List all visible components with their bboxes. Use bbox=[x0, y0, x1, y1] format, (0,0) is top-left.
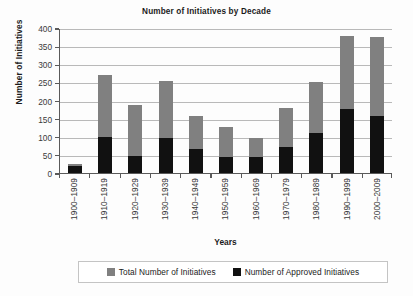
chart-figure: Number of Initiatives by Decade Number o… bbox=[0, 0, 413, 296]
bar-group[interactable] bbox=[249, 29, 263, 173]
y-tick-label: 50 bbox=[43, 151, 55, 161]
bar-segment-total bbox=[159, 81, 173, 138]
x-tick-label: 1950–1959 bbox=[221, 178, 230, 220]
bar-total[interactable] bbox=[340, 36, 354, 173]
y-tick-label: 300 bbox=[38, 60, 55, 70]
x-label-slot: 1960–1969 bbox=[249, 178, 263, 234]
bar-segment-approved bbox=[309, 133, 323, 173]
legend-swatch-icon bbox=[233, 268, 241, 276]
y-tick-350: 350 bbox=[38, 42, 59, 52]
chart-legend: Total Number of InitiativesNumber of App… bbox=[78, 261, 388, 283]
y-tick-label: 100 bbox=[38, 133, 55, 143]
bar-group[interactable] bbox=[279, 29, 293, 173]
bar-segment-total bbox=[98, 75, 112, 137]
y-tick-100: 100 bbox=[38, 133, 59, 143]
y-tick-150: 150 bbox=[38, 115, 59, 125]
legend-label: Total Number of Initiatives bbox=[119, 267, 216, 277]
y-tick-label: 350 bbox=[38, 42, 55, 52]
x-label-slot: 1900–1909 bbox=[67, 178, 81, 234]
bar-segment-approved bbox=[128, 156, 142, 173]
x-label-slot: 1980–1989 bbox=[309, 178, 323, 234]
bar-segment-approved bbox=[279, 147, 293, 173]
bar-segment-total bbox=[309, 82, 323, 133]
bar-segment-total bbox=[370, 37, 384, 116]
x-axis-tick-labels: 1900–19091910–19191920–19291930–19391940… bbox=[59, 178, 392, 234]
y-tick-200: 200 bbox=[38, 97, 59, 107]
bar-group[interactable] bbox=[309, 29, 323, 173]
bar-group[interactable] bbox=[219, 29, 233, 173]
bar-group[interactable] bbox=[128, 29, 142, 173]
bar-group[interactable] bbox=[68, 29, 82, 173]
bar-segment-total bbox=[340, 36, 354, 110]
x-tick-label: 1920–1929 bbox=[130, 178, 139, 220]
bar-segment-total bbox=[279, 108, 293, 147]
bar-segment-total bbox=[219, 127, 233, 157]
bar-segment-approved bbox=[340, 109, 354, 173]
x-tick-label: 1930–1939 bbox=[160, 178, 169, 220]
bar-segment-approved bbox=[370, 116, 384, 173]
y-tick-label: 250 bbox=[38, 78, 55, 88]
bar-total[interactable] bbox=[279, 108, 293, 173]
y-tick-label: 0 bbox=[47, 169, 55, 179]
y-tick-400: 400 bbox=[38, 24, 59, 34]
x-label-slot: 1930–1939 bbox=[158, 178, 172, 234]
bar-segment-approved bbox=[98, 137, 112, 173]
plot-area bbox=[59, 29, 392, 174]
x-label-slot: 1910–1919 bbox=[97, 178, 111, 234]
x-label-slot: 1950–1959 bbox=[218, 178, 232, 234]
y-axis-ticks: 050100150200250300350400 bbox=[0, 0, 59, 145]
y-tick-50: 50 bbox=[43, 151, 59, 161]
bar-segment-approved bbox=[249, 157, 263, 173]
x-label-slot: 1940–1949 bbox=[188, 178, 202, 234]
bar-segment-approved bbox=[219, 157, 233, 173]
bar-group[interactable] bbox=[189, 29, 203, 173]
y-tick-label: 200 bbox=[38, 97, 55, 107]
bar-total[interactable] bbox=[98, 75, 112, 173]
x-tick-label: 1980–1989 bbox=[312, 178, 321, 220]
y-tick-label: 400 bbox=[38, 24, 55, 34]
bar-total[interactable] bbox=[159, 81, 173, 173]
legend-swatch-icon bbox=[107, 268, 115, 276]
y-tick-label: 150 bbox=[38, 115, 55, 125]
x-axis-title: Years bbox=[59, 237, 392, 247]
bar-series-container bbox=[60, 29, 392, 173]
legend-item[interactable]: Number of Approved Initiatives bbox=[233, 267, 360, 277]
y-tick-250: 250 bbox=[38, 78, 59, 88]
y-tick-300: 300 bbox=[38, 60, 59, 70]
bar-segment-total bbox=[189, 116, 203, 149]
x-tick-label: 1900–1909 bbox=[70, 178, 79, 220]
bar-total[interactable] bbox=[68, 164, 82, 173]
bar-total[interactable] bbox=[128, 105, 142, 173]
x-label-slot: 1920–1929 bbox=[128, 178, 142, 234]
bar-total[interactable] bbox=[309, 82, 323, 173]
x-tick-label: 2000–2009 bbox=[372, 178, 381, 220]
bar-total[interactable] bbox=[189, 116, 203, 173]
bar-group[interactable] bbox=[98, 29, 112, 173]
bar-group[interactable] bbox=[340, 29, 354, 173]
x-label-slot: 1990–1999 bbox=[340, 178, 354, 234]
bar-segment-approved bbox=[68, 166, 82, 173]
bar-group[interactable] bbox=[370, 29, 384, 173]
x-tick-label: 1990–1999 bbox=[342, 178, 351, 220]
bar-segment-approved bbox=[159, 138, 173, 173]
bar-group[interactable] bbox=[159, 29, 173, 173]
bar-total[interactable] bbox=[370, 37, 384, 173]
y-tick-0: 0 bbox=[47, 169, 59, 179]
x-tick-label: 1970–1979 bbox=[281, 178, 290, 220]
x-tick-label: 1940–1949 bbox=[191, 178, 200, 220]
x-label-slot: 2000–2009 bbox=[370, 178, 384, 234]
x-label-slot: 1970–1979 bbox=[279, 178, 293, 234]
bar-segment-total bbox=[249, 138, 263, 157]
bar-total[interactable] bbox=[219, 127, 233, 173]
bar-segment-total bbox=[128, 105, 142, 156]
legend-label: Number of Approved Initiatives bbox=[245, 267, 360, 277]
bar-total[interactable] bbox=[249, 138, 263, 173]
bar-segment-approved bbox=[189, 149, 203, 173]
legend-item[interactable]: Total Number of Initiatives bbox=[107, 267, 216, 277]
chart-title: Number of Initiatives by Decade bbox=[0, 7, 413, 16]
x-tick-label: 1960–1969 bbox=[251, 178, 260, 220]
x-tick-label: 1910–1919 bbox=[100, 178, 109, 220]
